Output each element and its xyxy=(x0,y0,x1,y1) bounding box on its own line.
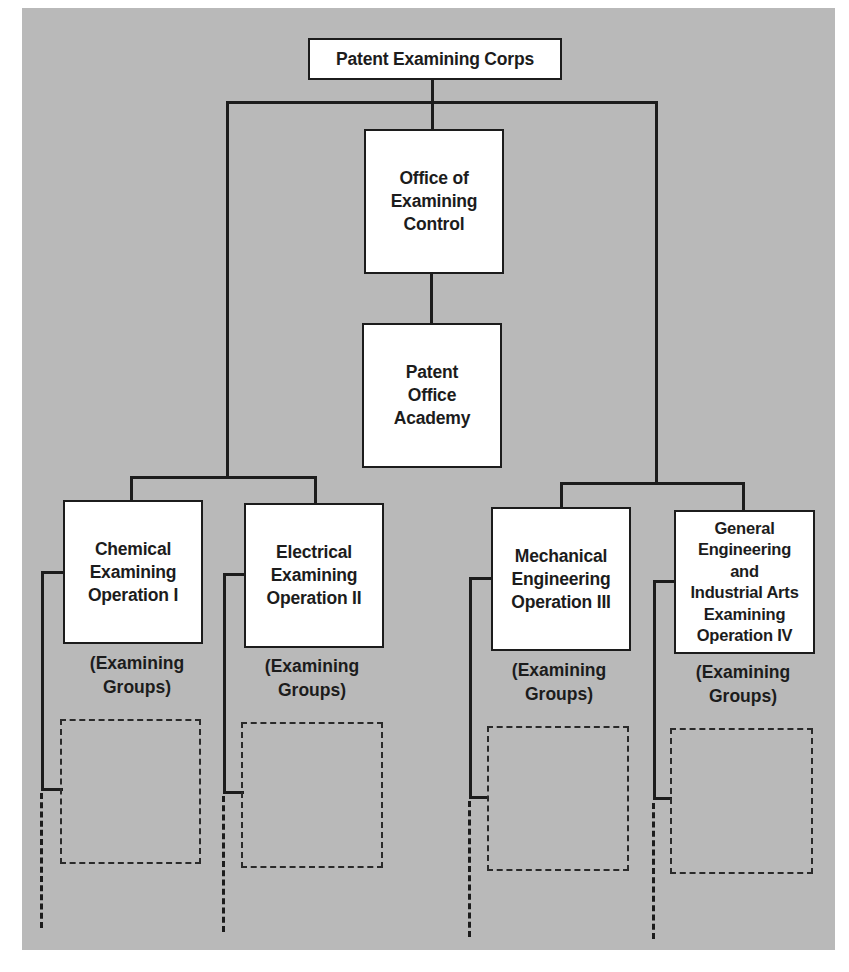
general-group-line xyxy=(653,580,675,583)
general-group-line-v xyxy=(653,580,656,799)
chemical-group-line xyxy=(41,571,63,574)
general-operation-label: General Engineering and Industrial Arts … xyxy=(690,518,798,647)
root-connector xyxy=(431,79,434,129)
electrical-group-continuation xyxy=(222,796,225,932)
patent-office-academy-box: Patent Office Academy xyxy=(362,323,502,468)
mechanical-operation-label: Mechanical Engineering Operation III xyxy=(511,545,611,614)
office-of-examining-control-box: Office of Examining Control xyxy=(364,129,504,274)
chemical-group-continuation xyxy=(40,793,43,928)
patent-office-academy-label: Patent Office Academy xyxy=(394,361,470,430)
right-trunk-connector xyxy=(655,103,658,484)
office-of-examining-control-label: Office of Examining Control xyxy=(391,167,478,236)
left-trunk-connector xyxy=(226,101,229,478)
electrical-groups-caption: (Examining Groups) xyxy=(237,654,387,702)
general-operation-box: General Engineering and Industrial Arts … xyxy=(674,510,815,654)
electrical-group-line-v xyxy=(223,573,226,793)
general-groups-caption: (Examining Groups) xyxy=(668,660,818,708)
general-drop xyxy=(742,482,745,511)
chemical-groups-caption: (Examining Groups) xyxy=(62,651,212,699)
chemical-group-line-v xyxy=(41,571,44,790)
general-examining-groups-box xyxy=(670,728,813,874)
chemical-examining-groups-box xyxy=(60,719,201,864)
top-horizontal-connector xyxy=(226,101,658,104)
mechanical-groups-caption: (Examining Groups) xyxy=(484,658,634,706)
electrical-examining-groups-box xyxy=(241,722,383,868)
chemical-operation-label: Chemical Examining Operation I xyxy=(88,538,178,607)
electrical-operation-label: Electrical Examining Operation II xyxy=(267,541,362,610)
mechanical-group-continuation xyxy=(468,801,471,937)
patent-examining-corps-box: Patent Examining Corps xyxy=(308,38,562,80)
mechanical-examining-groups-box xyxy=(487,726,629,871)
electrical-operation-box: Electrical Examining Operation II xyxy=(244,503,384,648)
chemical-drop xyxy=(130,476,133,501)
mechanical-drop xyxy=(560,482,563,508)
mechanical-group-line xyxy=(469,577,492,580)
mechanical-group-line-v xyxy=(469,577,472,797)
chemical-operation-box: Chemical Examining Operation I xyxy=(63,500,203,644)
right-branch-connector xyxy=(560,482,745,485)
electrical-group-line xyxy=(223,573,245,576)
general-group-continuation xyxy=(652,803,655,939)
mechanical-operation-box: Mechanical Engineering Operation III xyxy=(491,507,631,651)
left-branch-connector xyxy=(130,476,317,479)
staff-connector xyxy=(430,273,433,323)
electrical-drop xyxy=(314,476,317,504)
patent-examining-corps-label: Patent Examining Corps xyxy=(336,48,534,71)
mechanical-group-tick xyxy=(469,796,489,799)
